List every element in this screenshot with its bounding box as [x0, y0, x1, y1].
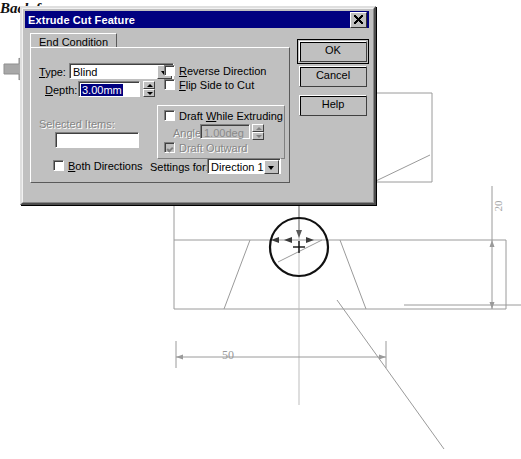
reverse-direction-label: Reverse Direction — [179, 65, 266, 77]
width-dimension-label: 50 — [222, 348, 234, 363]
angle-input: 1.00deg — [200, 124, 250, 139]
height-dimension-label: 20 — [492, 201, 504, 212]
depth-input[interactable]: 3.00mm — [78, 81, 140, 97]
angle-value: 1.00deg — [204, 127, 244, 139]
settings-for-combobox[interactable]: Direction 1 — [207, 158, 281, 174]
angle-stepper-down — [252, 132, 264, 140]
end-condition-panel: Type: Blind Depth: 3.00mm Selected Items… — [30, 47, 290, 183]
chevron-down-icon-2[interactable] — [264, 160, 279, 174]
circle-center-mark — [293, 241, 305, 253]
ok-button[interactable]: OK — [299, 41, 367, 62]
type-combobox[interactable]: Blind — [69, 63, 174, 79]
draft-outward-checkbox — [164, 142, 175, 153]
depth-stepper[interactable] — [143, 81, 155, 97]
settings-for-label: Settings for: — [150, 161, 209, 173]
depth-stepper-down[interactable] — [143, 89, 155, 97]
selected-items-input[interactable] — [55, 132, 139, 148]
dim-center-arrow-left — [284, 237, 292, 243]
dim-center-arrow-right — [306, 237, 314, 243]
reverse-direction-checkbox[interactable] — [164, 65, 175, 76]
close-icon[interactable] — [350, 12, 367, 28]
depth-stepper-up[interactable] — [143, 81, 155, 89]
trapezoid-left-side — [224, 240, 250, 309]
trapezoid-right-side — [340, 240, 366, 309]
screen: Ø20 50 20 Back face Extrude Cut Feature … — [0, 0, 521, 459]
dim50-arrow-right — [379, 355, 386, 360]
dim50-arrow-left — [176, 355, 183, 360]
dialog-title: Extrude Cut Feature — [28, 14, 135, 26]
type-label: Type: — [39, 66, 66, 78]
settings-for-value: Direction 1 — [211, 161, 264, 173]
angle-stepper — [252, 124, 264, 140]
dialog-titlebar[interactable]: Extrude Cut Feature — [25, 11, 369, 28]
angle-stepper-up — [252, 124, 264, 132]
flip-side-to-cut-checkbox[interactable] — [164, 79, 175, 90]
selected-items-label: Selected Items: — [39, 118, 115, 130]
help-button[interactable]: Help — [299, 95, 367, 116]
both-directions-label: Both Directions — [68, 160, 143, 172]
depth-value: 3.00mm — [81, 84, 123, 96]
extrude-cut-feature-dialog[interactable]: Extrude Cut Feature End Condition Type: … — [20, 6, 376, 205]
draft-while-extruding-label: Draft While Extruding — [179, 110, 283, 122]
draft-outward-label: Draft Outward — [179, 142, 247, 154]
both-directions-checkbox[interactable] — [53, 160, 64, 171]
outline-top-right — [375, 93, 432, 97]
depth-label: Depth: — [45, 84, 77, 96]
backface-leader-line — [337, 300, 444, 449]
diameter-line-inner — [278, 240, 322, 262]
dim-center-arrow-down — [296, 230, 302, 238]
flip-side-to-cut-label: Flip Side to Cut — [179, 79, 254, 91]
cancel-button[interactable]: Cancel — [299, 66, 367, 87]
draft-while-extruding-checkbox[interactable] — [164, 110, 175, 121]
dim20-arrow-top — [490, 240, 495, 247]
type-value: Blind — [73, 66, 97, 78]
